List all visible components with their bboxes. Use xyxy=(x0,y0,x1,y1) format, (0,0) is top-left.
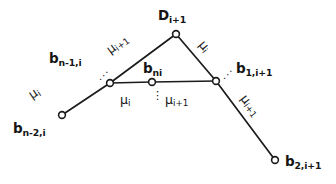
edge-label-mu-base-right: μi+1 xyxy=(165,94,188,107)
label-subscript: 2,i+1 xyxy=(294,160,321,171)
label-base: D xyxy=(158,7,169,23)
node-label-middle-node: bni xyxy=(143,62,162,76)
diagram-canvas: Di+1bn-1,ibnib1,i+1bn-2,ib2,i+1μiμi+1μiμ… xyxy=(0,0,336,184)
node-label-apex-node: Di+1 xyxy=(158,9,186,23)
node-label-lower-left-endpoint-node: bn-2,i xyxy=(13,122,46,136)
node-lower-right-endpoint-node xyxy=(272,157,279,164)
ellipsis-dots-right-junction: ⋰ xyxy=(223,70,233,80)
node-lower-left-endpoint-node xyxy=(59,112,66,119)
node-label-right-junction-node: b1,i+1 xyxy=(236,62,272,76)
label-base: μ xyxy=(165,92,173,107)
label-subscript: n-2,i xyxy=(22,127,45,138)
label-subscript: n-1,i xyxy=(58,57,81,68)
label-subscript: ni xyxy=(152,67,162,78)
label-base: μ xyxy=(120,92,128,107)
node-apex-node xyxy=(173,31,180,38)
edge-edge-lower-left xyxy=(62,83,110,115)
edge-label-mu-base-left: μi xyxy=(120,94,130,107)
label-subscript: i+1 xyxy=(169,14,186,25)
ellipsis-dots-left-junction: ⋰ xyxy=(99,71,109,81)
ellipsis-dots-base-center: ⋮ xyxy=(152,90,163,101)
node-label-left-junction-node: bn-1,i xyxy=(49,52,82,66)
edge-edge-base-left xyxy=(110,82,152,83)
node-label-lower-right-endpoint-node: b2,i+1 xyxy=(285,155,321,169)
node-middle-node xyxy=(149,79,156,86)
edge-edge-base-right xyxy=(152,81,216,82)
node-right-junction-node xyxy=(213,78,220,85)
label-subscript: i+1 xyxy=(173,98,188,108)
label-subscript: 1,i+1 xyxy=(245,67,272,78)
